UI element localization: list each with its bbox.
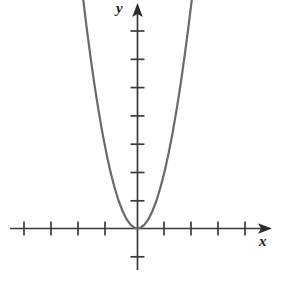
x-axis-label: x [259, 234, 267, 249]
y-axis-group [132, 3, 143, 270]
coordinate-plot [0, 0, 294, 304]
y-axis-label: y [116, 1, 123, 16]
graph-figure: y x [0, 0, 294, 304]
